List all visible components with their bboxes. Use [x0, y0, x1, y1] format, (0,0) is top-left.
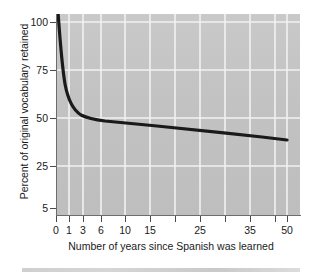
x-tick-mark-15	[150, 216, 151, 222]
x-tick-mark-3	[83, 216, 84, 222]
vocabulary-retention-figure: Percent of original vocabulary retained …	[0, 0, 320, 276]
x-tick-label-15: 15	[135, 224, 165, 236]
y-tick-25: 25	[10, 161, 48, 171]
x-axis-title: Number of years since Spanish was learne…	[40, 240, 302, 253]
x-tick-label-25: 25	[185, 224, 215, 236]
plot-area	[57, 14, 300, 215]
x-tick-mark-50	[287, 216, 288, 222]
retention-curve	[58, 14, 287, 140]
x-tick-mark-6	[101, 216, 102, 222]
y-axis-title: Percent of original vocabulary retained	[16, 4, 32, 219]
x-tick-mark-30	[225, 216, 226, 222]
footer-rule	[22, 268, 300, 272]
x-tick-mark-20	[175, 216, 176, 222]
x-tick-label-35: 35	[235, 224, 265, 236]
x-tick-mark-10	[125, 216, 126, 222]
x-axis-line	[56, 215, 301, 216]
x-tick-mark-0	[56, 216, 57, 222]
gridlines-vertical	[69, 14, 287, 215]
x-tick-mark-25	[200, 216, 201, 222]
gridlines-horizontal	[57, 22, 300, 166]
x-tick-mark-40	[275, 216, 276, 222]
x-tick-label-50: 50	[272, 224, 302, 236]
y-tick-100: 100	[10, 17, 48, 27]
y-tick-75: 75	[10, 65, 48, 75]
y-tick-5: 5	[10, 203, 48, 213]
y-tick-50: 50	[10, 113, 48, 123]
plot-canvas	[57, 14, 300, 215]
y-axis-line	[56, 14, 57, 216]
x-tick-mark-35	[250, 216, 251, 222]
x-tick-mark-1	[69, 216, 70, 222]
